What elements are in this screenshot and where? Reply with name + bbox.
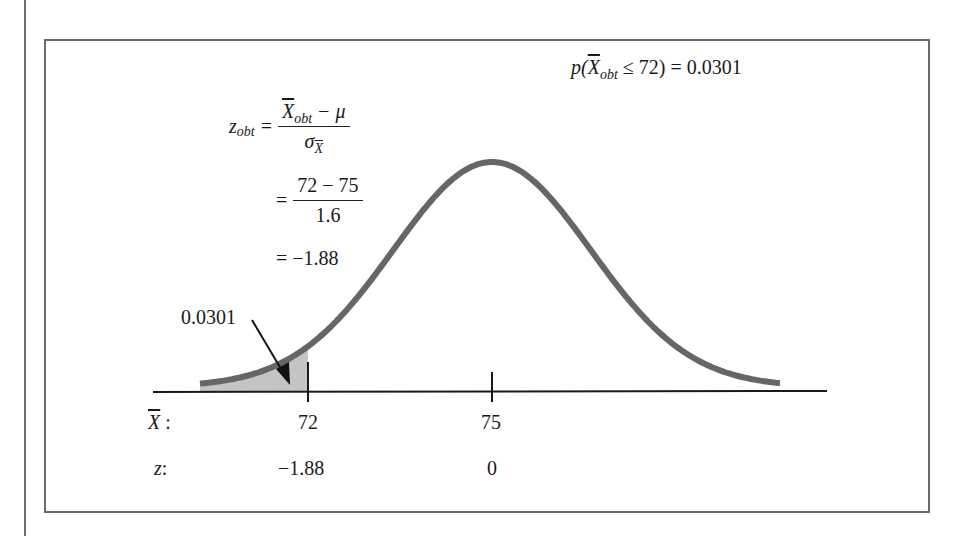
shaded-tail-area — [200, 346, 308, 392]
z-formula-fraction: Xobt − μ σX — [278, 100, 350, 153]
z-row-label: z: — [154, 458, 167, 478]
z-formula-line-1: zobt = Xobt − μ σX — [229, 100, 350, 153]
x-axis-line — [153, 391, 827, 392]
z-formula-result: = −1.88 — [276, 248, 339, 268]
normal-curve-plot — [0, 0, 974, 536]
xbar-row-label: X : — [148, 412, 171, 432]
substituted-fraction: 72 − 75 1.6 — [293, 174, 362, 227]
probability-statement: p(Xobt ≤ 72) = 0.0301 — [571, 57, 742, 77]
tick-label-xbar-72: 72 — [298, 412, 318, 432]
xbar-symbol: X — [588, 56, 600, 78]
tick-label-xbar-75: 75 — [481, 412, 501, 432]
z-obt-symbol: z — [229, 115, 237, 138]
shaded-area-label: 0.0301 — [181, 307, 236, 327]
z-formula-line-2: = 72 − 75 1.6 — [276, 174, 363, 227]
tick-label-z-72: −1.88 — [278, 458, 324, 478]
tick-label-z-75: 0 — [487, 458, 497, 478]
